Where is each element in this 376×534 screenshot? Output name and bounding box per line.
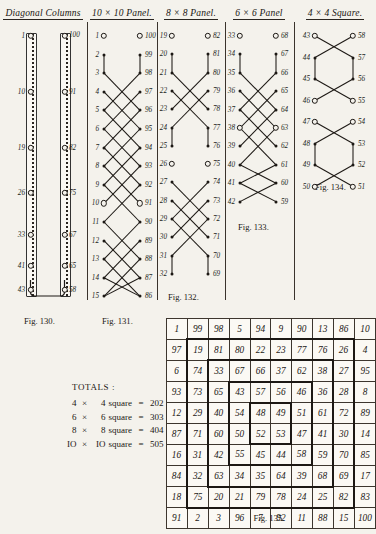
node-right-4 — [139, 90, 142, 93]
label-left-3: 21 — [160, 69, 167, 77]
label-left-5: 47 — [303, 118, 310, 126]
node-left-11 — [103, 221, 106, 224]
magic-cell: 99 — [187, 319, 208, 340]
node-left-12 — [103, 239, 106, 242]
label-right-1: 58 — [358, 32, 365, 40]
totals-word: square — [107, 438, 134, 451]
label-right-3: 56 — [358, 75, 365, 83]
node-left-7 — [239, 145, 242, 148]
magic-cell: 84 — [167, 465, 188, 486]
node-left-6 — [103, 128, 106, 131]
node-right-14 — [139, 276, 142, 279]
equals-icon: = — [134, 438, 149, 451]
label-left-6: 24 — [160, 124, 167, 132]
node-right-11 — [139, 221, 142, 224]
label-right-5: 67 — [69, 231, 76, 239]
label-right-11: 90 — [145, 218, 152, 226]
magic-cell: 8 — [354, 382, 375, 403]
node-right-6 — [139, 128, 142, 131]
label-left-1: 43 — [303, 32, 310, 40]
magic-cell: 31 — [187, 444, 208, 465]
label-right-9: 60 — [281, 179, 288, 187]
label-left-2: 34 — [228, 50, 235, 58]
label-right-4: 65 — [281, 87, 288, 95]
magic-square-table: 1999859499013861097198180222377762646743… — [166, 318, 376, 529]
label-left-15: 15 — [92, 292, 99, 300]
totals-value: 505 — [149, 438, 166, 451]
label-left-5: 5 — [95, 106, 99, 114]
magic-cell: 82 — [333, 487, 354, 508]
equals-icon: = — [134, 411, 149, 424]
node-right-6 — [207, 126, 210, 129]
totals-factor-a: 8 — [62, 424, 78, 437]
label-left-7: 43 — [18, 286, 25, 294]
label-right-1: 100 — [69, 31, 80, 39]
label-right-12: 71 — [213, 233, 220, 241]
label-right-8: 93 — [145, 162, 152, 170]
label-right-10: 73 — [213, 197, 220, 205]
label-left-9: 41 — [228, 179, 235, 187]
label-right-8: 61 — [281, 161, 288, 169]
label-right-3: 80 — [213, 69, 220, 77]
label-right-7: 94 — [145, 144, 152, 152]
node-left-4 — [103, 90, 106, 93]
magic-cell: 85 — [354, 444, 375, 465]
caption-fig-134: Fig. 134. — [315, 182, 346, 192]
label-right-5: 54 — [358, 118, 365, 126]
label-right-12: 89 — [145, 237, 152, 245]
label-right-2: 91 — [69, 88, 76, 96]
node-left-8 — [239, 163, 242, 166]
magic-cell: 17 — [354, 465, 375, 486]
node-right-7 — [207, 144, 210, 147]
totals-factor-b: 6 — [91, 411, 107, 424]
label-left-2: 10 — [18, 88, 25, 96]
magic-cell: 48 — [250, 403, 271, 424]
label-left-3: 45 — [303, 75, 310, 83]
square-4x4-wires — [295, 0, 375, 300]
node-right-14 — [207, 272, 210, 275]
label-left-6: 6 — [95, 125, 99, 133]
magic-cell: 87 — [167, 423, 188, 444]
label-left-11: 11 — [92, 218, 99, 226]
magic-cell: 42 — [208, 444, 229, 465]
table-row: 6743367663762382795 — [167, 360, 376, 381]
node-right-7 — [275, 145, 278, 148]
totals-factor-b: 4 — [91, 397, 107, 410]
label-right-15: 86 — [145, 292, 152, 300]
magic-cell: 20 — [208, 487, 229, 508]
label-left-2: 2 — [95, 51, 99, 59]
node-right-5 — [139, 109, 142, 112]
node-left-12 — [171, 236, 174, 239]
label-left-5: 23 — [160, 105, 167, 113]
magic-cell: 86 — [333, 319, 354, 340]
node-right-9 — [207, 181, 210, 184]
magic-cell: 27 — [333, 360, 354, 381]
magic-cell: 89 — [354, 403, 375, 424]
label-left-5: 33 — [18, 231, 25, 239]
figure-131-panel-10x10: Fig. 131. 110029939849759669579489399210… — [88, 0, 157, 300]
magic-cell: 78 — [271, 487, 292, 508]
magic-cell: 24 — [291, 487, 312, 508]
magic-cell: 52 — [250, 423, 271, 444]
magic-cell: 72 — [333, 403, 354, 424]
label-right-7: 58 — [69, 286, 76, 294]
magic-cell: 16 — [167, 444, 188, 465]
magic-cell: 18 — [167, 487, 188, 508]
totals-row: 8×8square=404 — [62, 424, 165, 437]
totals-word: square — [107, 397, 134, 410]
magic-cell: 71 — [187, 423, 208, 444]
label-left-7: 49 — [303, 161, 310, 169]
label-right-13: 70 — [213, 252, 220, 260]
label-right-5: 64 — [281, 106, 288, 114]
label-right-7: 62 — [281, 142, 288, 150]
label-left-14: 14 — [92, 274, 99, 282]
label-right-11: 72 — [213, 215, 220, 223]
node-left-6 — [314, 142, 317, 145]
magic-cell: 23 — [271, 339, 292, 360]
label-right-13: 88 — [145, 255, 152, 263]
label-right-1: 100 — [145, 32, 156, 40]
node-left-13 — [103, 258, 106, 261]
totals-block: TOTALS : 4×4square=2026×6square=3038×8sq… — [62, 381, 165, 451]
label-left-7: 39 — [228, 142, 235, 150]
node-right-7 — [139, 146, 142, 149]
